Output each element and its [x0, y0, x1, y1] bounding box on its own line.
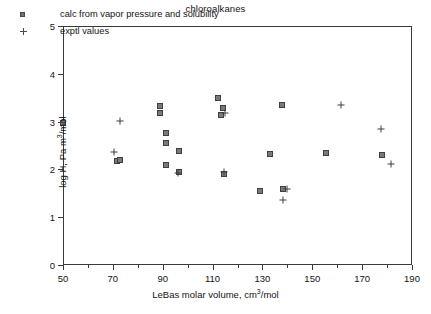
data-point-exptl: [221, 109, 228, 116]
y-axis-title-sup: 3: [56, 134, 63, 138]
x-tick-minor: [138, 265, 139, 268]
x-tick-minor: [238, 265, 239, 268]
data-point-exptl: [283, 185, 290, 192]
data-point-calc: [157, 110, 163, 116]
x-tick-minor: [387, 265, 388, 268]
square-marker-icon: [13, 12, 60, 17]
data-point-calc: [163, 162, 169, 168]
x-tick: [213, 265, 214, 270]
data-point-exptl: [280, 196, 287, 203]
x-axis-title-pre: LeBas molar volume, cm: [152, 289, 257, 300]
x-tick: [312, 265, 313, 270]
data-point-exptl: [220, 169, 227, 176]
x-tick-minor: [188, 265, 189, 268]
y-tick-label: 2: [50, 164, 55, 175]
x-tick: [412, 265, 413, 270]
data-point-calc: [379, 152, 385, 158]
legend-item-exptl: exptl values: [13, 24, 219, 38]
data-point-calc: [117, 157, 123, 163]
x-tick: [262, 265, 263, 270]
legend-item-calc: calc from vapor pressure and solubility: [13, 7, 219, 21]
x-tick: [63, 265, 64, 270]
data-point-exptl: [337, 102, 344, 109]
data-point-calc: [215, 95, 221, 101]
data-point-calc: [163, 130, 169, 136]
x-tick-minor: [88, 265, 89, 268]
y-axis-title-post: /mol: [57, 116, 68, 134]
x-axis-title-post: /mol: [261, 289, 279, 300]
data-point-calc: [257, 188, 263, 194]
y-tick-label: 1: [50, 212, 55, 223]
y-tick-label: 3: [50, 116, 55, 127]
x-tick-label: 170: [354, 273, 370, 284]
data-point-exptl: [175, 170, 182, 177]
x-tick-minor: [287, 265, 288, 268]
y-tick-label: 0: [50, 260, 55, 271]
x-tick-label: 90: [157, 273, 168, 284]
x-axis-title: LeBas molar volume, cm3/mol: [0, 288, 431, 300]
legend-label-calc: calc from vapor pressure and solubility: [60, 9, 219, 19]
legend-label-exptl: exptl values: [60, 26, 109, 36]
x-tick-label: 190: [404, 273, 420, 284]
data-point-calc: [157, 103, 163, 109]
x-tick: [362, 265, 363, 270]
x-tick: [113, 265, 114, 270]
data-point-calc: [279, 102, 285, 108]
x-tick: [163, 265, 164, 270]
plus-marker-icon: [13, 28, 60, 35]
data-point-exptl: [387, 160, 394, 167]
data-point-calc: [176, 148, 182, 154]
data-point-exptl: [378, 126, 385, 133]
x-tick-minor: [337, 265, 338, 268]
x-tick-label: 150: [304, 273, 320, 284]
data-point-calc: [163, 140, 169, 146]
y-tick-label: 4: [50, 68, 55, 79]
data-point-calc: [267, 151, 273, 157]
x-tick-label: 130: [254, 273, 270, 284]
x-tick-label: 110: [205, 273, 220, 284]
chart-legend: calc from vapor pressure and solubility …: [13, 7, 219, 41]
data-point-exptl: [116, 117, 123, 124]
y-axis-title: log H, Pa m3/mol: [56, 82, 68, 222]
chart-root: chloroalkanes 01234550709011013015017019…: [0, 0, 431, 314]
x-tick-label: 50: [58, 273, 69, 284]
y-axis-title-pre: log H, Pa m: [57, 138, 68, 188]
x-tick-label: 70: [108, 273, 119, 284]
plot-area: 012345507090110130150170190: [63, 26, 412, 265]
data-point-exptl: [110, 149, 117, 156]
y-tick: [58, 74, 63, 75]
data-point-calc: [323, 150, 329, 156]
